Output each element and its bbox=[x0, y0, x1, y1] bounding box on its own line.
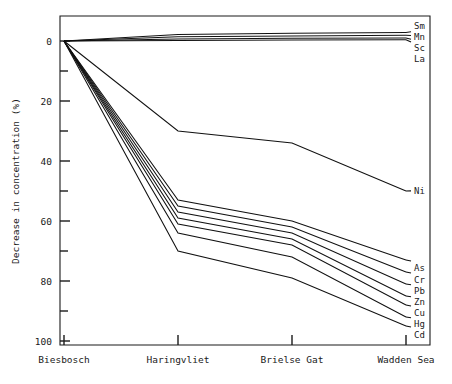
series-label-la: La bbox=[414, 54, 425, 64]
series-line-cd bbox=[64, 41, 406, 326]
x-axis-tick-labels: Biesbosch Haringvliet Brielse Gat Wadden… bbox=[38, 354, 434, 365]
series-leader-sm bbox=[406, 32, 411, 33]
series-label-pb: Pb bbox=[414, 286, 425, 296]
y-tick-label-100: 100 bbox=[35, 336, 52, 347]
series-leader-pb bbox=[406, 284, 411, 285]
series-leader-la bbox=[406, 40, 411, 42]
series-label-hg: Hg bbox=[414, 319, 425, 329]
x-axis-ticks bbox=[64, 335, 406, 345]
series-label-cr: Cr bbox=[414, 275, 425, 285]
series-leader-zn bbox=[406, 296, 411, 297]
x-tick-label-biesbosch: Biesbosch bbox=[38, 354, 89, 365]
series-labels: Sm Mn Sc La Ni As Cr Pb Zn Cu Hg Cd bbox=[414, 21, 425, 340]
series-label-mn: Mn bbox=[414, 32, 425, 42]
y-tick-label-60: 60 bbox=[41, 216, 53, 227]
series-label-ni: Ni bbox=[414, 186, 425, 196]
y-tick-label-0: 0 bbox=[46, 36, 52, 47]
x-tick-label-wadden-sea: Wadden Sea bbox=[377, 354, 434, 365]
axis-frame-rect bbox=[60, 16, 430, 345]
series-leader-sc bbox=[406, 38, 411, 39]
series-label-sc: Sc bbox=[414, 43, 425, 53]
series-group bbox=[64, 32, 411, 327]
series-leader-as bbox=[406, 260, 411, 261]
series-leader-hg bbox=[406, 317, 411, 318]
y-tick-label-20: 20 bbox=[41, 96, 53, 107]
y-axis-title: Decrease in concentration (%) bbox=[10, 98, 21, 264]
series-leader-cd bbox=[406, 326, 411, 327]
series-line-hg bbox=[64, 41, 406, 317]
series-label-sm: Sm bbox=[414, 21, 425, 31]
series-line-pb bbox=[64, 41, 406, 284]
x-tick-label-brielse-gat: Brielse Gat bbox=[261, 354, 324, 365]
series-leader-cr bbox=[406, 272, 411, 273]
series-label-cu: Cu bbox=[414, 308, 425, 318]
series-line-cr bbox=[64, 41, 406, 272]
series-leader-cu bbox=[406, 305, 411, 306]
series-line-zn bbox=[64, 41, 406, 296]
series-label-cd: Cd bbox=[414, 330, 425, 340]
y-axis-tick-labels: 0 20 40 60 80 100 bbox=[35, 36, 52, 347]
plot-frame bbox=[60, 16, 430, 345]
series-label-as: As bbox=[414, 263, 425, 273]
line-chart: 0 20 40 60 80 100 Decrease in concentrat… bbox=[0, 0, 452, 384]
y-axis-ticks bbox=[60, 41, 70, 341]
series-line-cu bbox=[64, 41, 406, 305]
x-tick-label-haringvliet: Haringvliet bbox=[147, 354, 210, 365]
series-label-zn: Zn bbox=[414, 297, 425, 307]
y-tick-label-40: 40 bbox=[41, 156, 53, 167]
y-tick-label-80: 80 bbox=[41, 276, 53, 287]
chart-container: 0 20 40 60 80 100 Decrease in concentrat… bbox=[0, 0, 452, 384]
series-line-as bbox=[64, 41, 406, 260]
